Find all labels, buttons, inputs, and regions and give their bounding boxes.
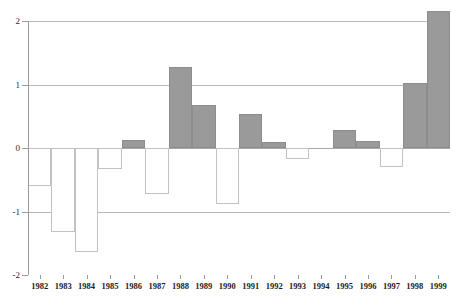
- x-tick-1983: [63, 275, 64, 279]
- x-tick-1984: [87, 275, 88, 279]
- y-tick-1: [22, 85, 28, 86]
- bar-1985: [98, 148, 121, 169]
- bar-1992: [262, 142, 285, 148]
- bar-1998: [403, 83, 426, 148]
- bar-1986: [122, 140, 145, 148]
- bar-1995: [333, 130, 356, 148]
- bar-1993: [286, 148, 309, 159]
- x-tick-1985: [110, 275, 111, 279]
- bar-1997: [380, 148, 403, 167]
- x-tick-1992: [274, 275, 275, 279]
- bar-chart: -2-1012 19821983198419851986198719881989…: [0, 0, 461, 306]
- x-tick-1999: [438, 275, 439, 279]
- bar-1984: [75, 148, 98, 252]
- y-tick-label--1: -1: [0, 208, 20, 217]
- bar-1988: [169, 67, 192, 148]
- bar-1996: [356, 141, 379, 148]
- y-tick-2: [22, 21, 28, 22]
- y-tick--1: [22, 212, 28, 213]
- bar-1989: [192, 105, 215, 148]
- gridline-1: [28, 85, 450, 86]
- y-tick--2: [22, 275, 28, 276]
- x-tick-label-1999: 1999: [424, 282, 452, 291]
- y-tick-label-0: 0: [0, 144, 20, 153]
- bar-1987: [145, 148, 168, 194]
- bar-1999: [427, 11, 450, 148]
- x-tick-1991: [251, 275, 252, 279]
- x-tick-1998: [415, 275, 416, 279]
- bar-1990: [216, 148, 239, 204]
- x-tick-1993: [298, 275, 299, 279]
- x-tick-1996: [368, 275, 369, 279]
- x-tick-1995: [345, 275, 346, 279]
- x-tick-1990: [227, 275, 228, 279]
- bar-1983: [51, 148, 74, 232]
- x-tick-1986: [134, 275, 135, 279]
- y-tick-0: [22, 148, 28, 149]
- y-tick-label-1: 1: [0, 81, 20, 90]
- y-axis-line: [28, 21, 29, 275]
- x-tick-1982: [40, 275, 41, 279]
- plot-area: [28, 21, 450, 275]
- x-tick-1989: [204, 275, 205, 279]
- x-tick-1997: [391, 275, 392, 279]
- bar-1982: [28, 148, 51, 186]
- gridline-2: [28, 21, 450, 22]
- x-tick-1994: [321, 275, 322, 279]
- bar-1991: [239, 114, 262, 148]
- x-tick-1988: [180, 275, 181, 279]
- y-tick-label--2: -2: [0, 271, 20, 280]
- y-tick-label-2: 2: [0, 17, 20, 26]
- x-tick-1987: [157, 275, 158, 279]
